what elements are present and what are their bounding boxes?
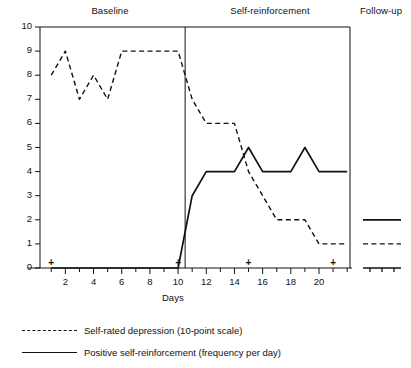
y-tick-label-0: 0 [8, 261, 32, 272]
legend-label-depression: Self-rated depression (10-point scale) [84, 325, 242, 336]
x-axis-title: Days [162, 292, 184, 303]
y-tick-label-6: 6 [8, 116, 32, 127]
x-tick-label-6: 6 [110, 276, 134, 287]
legend-label-reinforcement: Positive self-reinforcement (frequency p… [84, 347, 281, 358]
legend-swatch-dashed [22, 330, 77, 331]
plot-frame [40, 27, 350, 268]
legend-item-depression: Self-rated depression (10-point scale) [22, 325, 242, 336]
x-tick-label-10: 10 [166, 276, 190, 287]
series-line-depression [51, 51, 347, 244]
event-marker-day-1: + [48, 257, 54, 268]
y-tick-label-7: 7 [8, 92, 32, 103]
x-tick-label-14: 14 [222, 276, 246, 287]
chart-figure: Baseline Self-reinforcement Follow-up ++… [0, 0, 411, 368]
x-tick-label-16: 16 [251, 276, 275, 287]
y-tick-label-8: 8 [8, 68, 32, 79]
x-tick-label-8: 8 [138, 276, 162, 287]
plot-area: ++++ [0, 0, 411, 368]
y-tick-label-9: 9 [8, 44, 32, 55]
y-tick-label-5: 5 [8, 141, 32, 152]
x-tick-label-2: 2 [53, 276, 77, 287]
y-tick-label-3: 3 [8, 189, 32, 200]
x-tick-label-20: 20 [307, 276, 331, 287]
y-tick-label-10: 10 [8, 20, 32, 31]
event-marker-day-15: + [246, 257, 252, 268]
x-tick-label-18: 18 [279, 276, 303, 287]
y-tick-label-4: 4 [8, 165, 32, 176]
x-tick-label-4: 4 [82, 276, 106, 287]
y-tick-label-2: 2 [8, 213, 32, 224]
event-marker-day-21: + [330, 257, 336, 268]
series-line-reinforcement [51, 148, 347, 269]
legend-swatch-solid [22, 352, 77, 353]
y-tick-label-1: 1 [8, 237, 32, 248]
event-marker-day-10: + [175, 257, 181, 268]
legend-item-reinforcement: Positive self-reinforcement (frequency p… [22, 347, 281, 358]
x-tick-label-12: 12 [194, 276, 218, 287]
